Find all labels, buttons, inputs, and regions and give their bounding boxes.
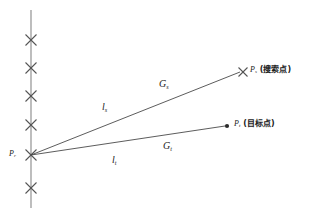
label-p-r-sub: r	[14, 153, 16, 158]
diagram-canvas	[0, 0, 311, 216]
diagram-figure: ls Gs lt Gt Pr Ps(搜索点) Pt(目标点)	[0, 0, 311, 216]
target-ray	[31, 126, 225, 155]
target-point-marker	[225, 124, 229, 128]
label-p-s-annotation: (搜索点)	[260, 65, 291, 74]
label-l-t-sub: t	[115, 159, 117, 166]
search-ray	[31, 72, 240, 155]
label-l-s-sub: s	[105, 106, 107, 113]
label-p-s-sub: s	[255, 69, 257, 74]
label-p-t-sub: t	[239, 123, 240, 128]
label-g-s: Gs	[159, 79, 169, 89]
label-p-t-annotation: (目标点)	[243, 119, 274, 128]
label-p-s: Ps(搜索点)	[250, 66, 291, 74]
label-p-t: Pt(目标点)	[234, 120, 275, 128]
label-g-s-sub: s	[166, 83, 168, 90]
label-p-r: Pr	[9, 150, 16, 158]
label-l-s: ls	[102, 102, 107, 112]
label-l-t: lt	[112, 155, 117, 165]
label-g-t-sub: t	[170, 145, 172, 152]
label-g-t: Gt	[163, 141, 172, 151]
